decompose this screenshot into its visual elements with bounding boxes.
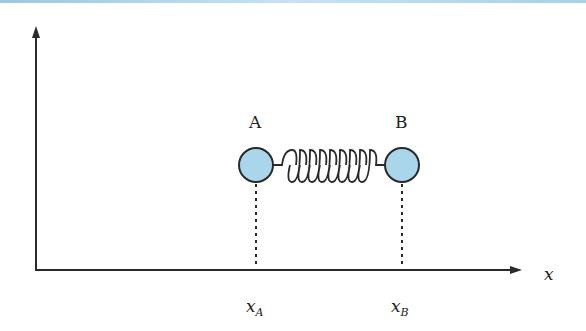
x-axis-label: x	[544, 264, 554, 284]
vertical-axis	[32, 26, 40, 270]
position-label-b: xB	[391, 296, 409, 319]
mass-a	[239, 148, 273, 182]
horizontal-axis	[35, 266, 522, 274]
arrowhead-up-icon	[32, 26, 40, 38]
mass-b	[385, 148, 419, 182]
mass-b-label: B	[395, 112, 408, 132]
arrowhead-right-icon	[510, 266, 522, 274]
spring	[273, 150, 385, 182]
spring-diagram: x A B xA xB	[0, 0, 586, 331]
position-label-a: xA	[246, 296, 264, 319]
mass-a-label: A	[248, 112, 262, 132]
